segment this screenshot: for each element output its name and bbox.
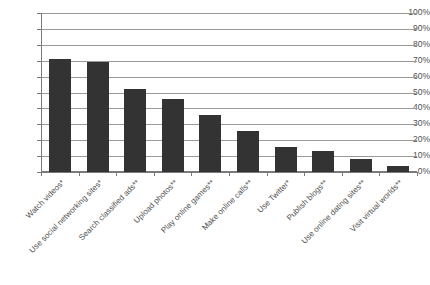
x-axis-labels: Watch videos*Use social networking sites… [0, 0, 430, 285]
x-axis-category-label: Play online games** [55, 178, 217, 285]
x-axis-category-label: Visit virtual worlds** [243, 178, 405, 285]
x-axis-category-label: Make online calls** [92, 178, 254, 285]
bar-chart: 100%90%80%70%60%50%40%30%20%10%0% Watch … [0, 0, 430, 285]
